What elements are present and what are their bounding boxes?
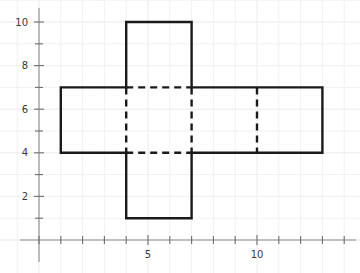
figure-root: 510246810 — [0, 0, 360, 273]
y-axis-tick-label: 10 — [15, 17, 28, 28]
plot-background — [0, 0, 360, 273]
y-axis-tick-label: 8 — [22, 60, 28, 71]
y-axis-tick-label: 4 — [22, 147, 28, 158]
y-axis-tick-label: 2 — [22, 191, 28, 202]
x-axis-tick-label: 5 — [145, 249, 151, 260]
x-axis-tick-label: 10 — [251, 249, 264, 260]
coordinate-plot: 510246810 — [0, 0, 360, 273]
y-axis-tick-label: 6 — [22, 104, 28, 115]
